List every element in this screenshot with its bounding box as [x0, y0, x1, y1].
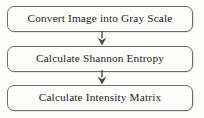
flowchart-node-calculate-shannon-entropy: Calculate Shannon Entropy	[7, 46, 193, 72]
arrow-down-icon	[94, 31, 110, 46]
flowchart-node-label: Calculate Shannon Entropy	[36, 53, 164, 64]
flowchart-diagram: Convert Image into Gray Scale Calculate …	[0, 0, 204, 118]
flowchart-node-label: Convert Image into Gray Scale	[28, 13, 173, 24]
flowchart-node-label: Calculate Intensity Matrix	[39, 92, 161, 103]
flowchart-node-calculate-intensity-matrix: Calculate Intensity Matrix	[7, 85, 193, 111]
arrow-down-icon	[94, 70, 110, 85]
flowchart-node-convert-image-into-gray-scale: Convert Image into Gray Scale	[7, 6, 193, 32]
